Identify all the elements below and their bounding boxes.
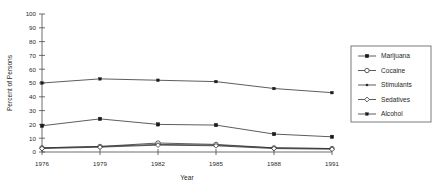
series-line-marijuana (42, 119, 332, 137)
series-line-sedatives (42, 145, 332, 149)
data-point-alcohol-1991 (331, 91, 334, 94)
data-point-alcohol-1988 (273, 87, 276, 90)
y-tick-label: 50 (29, 79, 36, 86)
y-tick-label: 60 (29, 66, 36, 73)
legend-entry-cocaine[interactable]: Cocaine (358, 67, 406, 74)
y-axis-tick-labels: 0102030405060708090100 (26, 10, 37, 155)
series-line-alcohol (42, 79, 332, 93)
legend-marker-marijuana (365, 54, 368, 57)
legend-entry-stimulants[interactable]: Stimulants (358, 81, 412, 88)
x-axis-title: Year (180, 174, 194, 181)
data-point-marijuana-1982 (156, 123, 159, 126)
x-tick-label: 1988 (267, 160, 281, 167)
data-point-marijuana-1976 (40, 124, 43, 127)
x-axis-tick-labels: 197619791982198519881991 (35, 160, 339, 167)
legend-label-stimulants: Stimulants (381, 81, 412, 88)
series-marijuana (40, 117, 333, 138)
y-tick-label: 100 (26, 10, 37, 17)
legend-entry-marijuana[interactable]: Marijuana (358, 52, 410, 60)
line-chart: 0102030405060708090100 Percent of Person… (0, 0, 437, 191)
y-axis-title: Percent of Persons (6, 54, 13, 111)
data-point-marijuana-1991 (330, 135, 333, 138)
data-point-marijuana-1979 (98, 117, 101, 120)
data-point-alcohol-1982 (157, 79, 160, 82)
legend-label-cocaine: Cocaine (381, 67, 406, 74)
series-alcohol (41, 78, 334, 94)
series-line-stimulants (42, 144, 332, 148)
chart-canvas: 0102030405060708090100 Percent of Person… (0, 0, 437, 191)
legend-entry-alcohol[interactable]: Alcohol (358, 110, 403, 117)
legend-entry-sedatives[interactable]: Sedatives (358, 96, 411, 103)
legend-marker-cocaine (365, 68, 369, 72)
x-tick-label: 1991 (325, 160, 339, 167)
data-point-marijuana-1988 (272, 132, 275, 135)
y-tick-label: 90 (29, 24, 36, 31)
legend-label-alcohol: Alcohol (381, 110, 403, 117)
y-tick-label: 70 (29, 52, 36, 59)
legend-label-marijuana: Marijuana (381, 52, 410, 60)
y-tick-label: 30 (29, 107, 36, 114)
x-tick-label: 1985 (209, 160, 223, 167)
data-point-alcohol-1976 (41, 82, 44, 85)
legend-marker-stimulants (366, 84, 368, 86)
x-tick-label: 1976 (35, 160, 49, 167)
x-axis: 197619791982198519881991 Year (35, 149, 339, 181)
legend-marker-alcohol (366, 113, 369, 116)
data-point-alcohol-1985 (215, 80, 218, 83)
y-tick-label: 80 (29, 38, 36, 45)
legend-marker-sedatives (365, 97, 370, 102)
x-tick-label: 1979 (93, 160, 107, 167)
y-tick-label: 10 (29, 135, 36, 142)
y-tick-label: 20 (29, 121, 36, 128)
legend: MarijuanaCocaineStimulantsSedativesAlcoh… (351, 46, 431, 122)
y-tick-label: 0 (33, 148, 37, 155)
data-series-layer (40, 78, 335, 152)
legend-label-sedatives: Sedatives (381, 96, 411, 103)
data-point-alcohol-1979 (99, 78, 102, 81)
y-tick-label: 40 (29, 93, 36, 100)
y-axis: 0102030405060708090100 Percent of Person… (6, 10, 45, 155)
x-tick-label: 1982 (151, 160, 165, 167)
legend-entries: MarijuanaCocaineStimulantsSedativesAlcoh… (358, 52, 412, 117)
data-point-marijuana-1985 (214, 123, 217, 126)
